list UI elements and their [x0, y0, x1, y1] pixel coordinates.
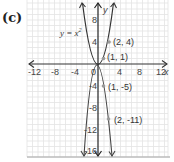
equation-label: y = x2	[59, 27, 82, 38]
y-tick-4: 4	[92, 37, 97, 47]
y-tick-minus8: -8	[89, 103, 97, 113]
y-tick-8: 8	[92, 15, 97, 25]
graph: (2, 4) (1, 1) (1, -5) (2, -11) y = x2 -1…	[0, 0, 174, 162]
point-1-1	[102, 57, 106, 61]
x-axis-label: x	[163, 67, 169, 77]
point-2-4	[107, 40, 111, 44]
point-label-1-1: (1, 1)	[107, 52, 128, 62]
x-tick-minus12: -12	[28, 67, 41, 77]
y-tick-minus4: -4	[89, 81, 97, 91]
y-axis-label: y	[102, 5, 108, 15]
point-label-2-minus11: (2, -11)	[114, 115, 142, 125]
point-label-1-minus5: (1, -5)	[108, 82, 132, 92]
x-tick-minus4: -4	[71, 67, 79, 77]
point-label-2-4: (2, 4)	[113, 37, 134, 47]
y-tick-minus12: -12	[84, 125, 97, 135]
x-tick-4: 4	[117, 67, 122, 77]
y-tick-minus16: -16	[84, 146, 97, 156]
x-tick-8: 8	[137, 67, 142, 77]
x-tick-minus8: -8	[51, 67, 59, 77]
x-tick-0: 0	[91, 67, 96, 77]
point-1-minus5	[102, 84, 106, 88]
point-2-minus11	[107, 117, 111, 121]
